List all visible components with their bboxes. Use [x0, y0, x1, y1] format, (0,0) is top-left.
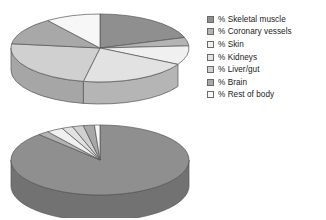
pie-chart-resting — [0, 4, 200, 108]
legend-swatch-icon — [207, 91, 214, 98]
legend-item: % Coronary vessels — [207, 26, 323, 39]
legend-item: % Rest of body — [207, 89, 323, 102]
legend-swatch-icon — [207, 66, 214, 73]
legend-item: % Liver/gut — [207, 63, 323, 76]
legend-item-label: % Liver/gut — [218, 65, 260, 74]
legend-swatch-icon — [207, 79, 214, 86]
chart-legend: % Skeletal muscle % Coronary vessels % S… — [207, 13, 323, 101]
legend-item: % Brain — [207, 76, 323, 89]
charts-column — [0, 0, 200, 220]
legend-item-label: % Kidneys — [218, 53, 257, 62]
legend-item: % Kidneys — [207, 51, 323, 64]
legend-item-label: % Coronary vessels — [218, 27, 292, 36]
legend-item-label: % Brain — [218, 78, 247, 87]
legend-swatch-icon — [207, 41, 214, 48]
legend-swatch-icon — [207, 16, 214, 23]
legend-item-label: % Rest of body — [218, 90, 274, 99]
figure-root: % Skeletal muscle % Coronary vessels % S… — [0, 0, 326, 220]
legend-item-label: % Skin — [218, 40, 244, 49]
pie-chart-exercise — [0, 108, 200, 218]
legend-item: % Skeletal muscle — [207, 13, 323, 26]
legend-swatch-icon — [207, 54, 214, 61]
legend-item: % Skin — [207, 38, 323, 51]
legend-item-label: % Skeletal muscle — [218, 15, 286, 24]
legend-swatch-icon — [207, 28, 214, 35]
